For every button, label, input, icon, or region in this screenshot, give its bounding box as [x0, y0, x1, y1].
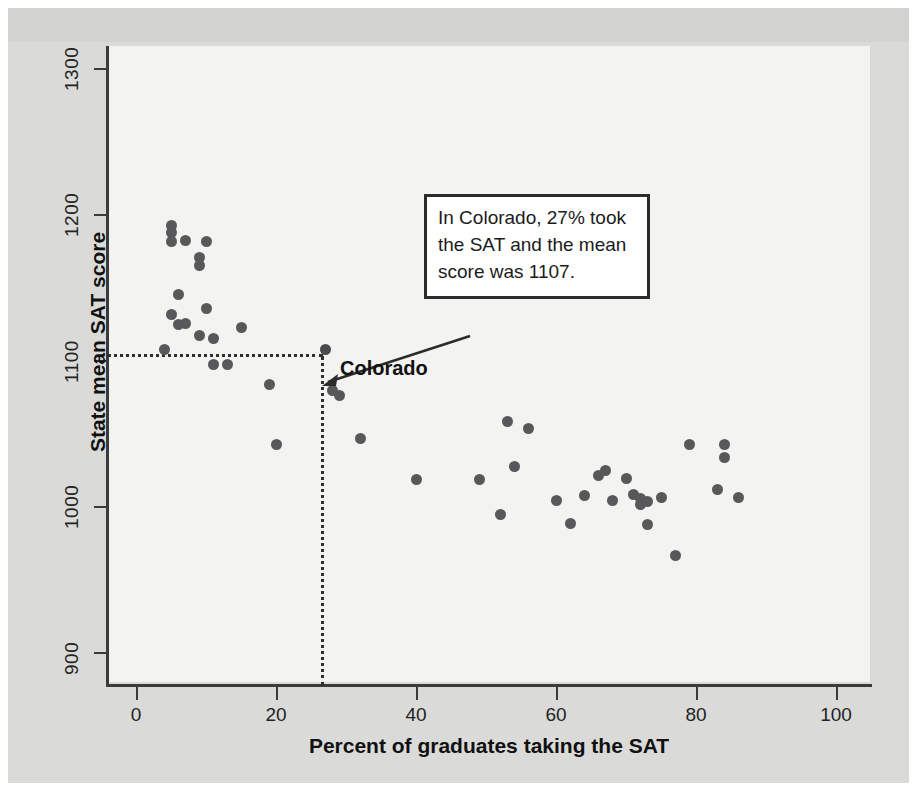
- data-point: [719, 452, 730, 463]
- data-point: [474, 474, 485, 485]
- y-tick-1000: [94, 506, 107, 508]
- y-tick-label-900-text: 900: [61, 631, 83, 675]
- data-point: [166, 309, 177, 320]
- y-tick-label-1100-text: 1100: [61, 339, 83, 383]
- data-point: [208, 359, 219, 370]
- chart-page: 1300 1200 1100 1000 900 0 20 40 60 80 10…: [0, 0, 917, 798]
- x-tick-60: [556, 687, 558, 700]
- data-point: [180, 318, 191, 329]
- data-point: [551, 495, 562, 506]
- data-point: [495, 509, 506, 520]
- data-point: [264, 379, 275, 390]
- data-point: [579, 490, 590, 501]
- x-tick-100: [836, 687, 838, 700]
- x-axis-line: [106, 684, 872, 687]
- colorado-point-label: Colorado: [340, 357, 428, 380]
- data-point: [201, 236, 212, 247]
- x-tick-20: [276, 687, 278, 700]
- y-tick-label-900: 900: [50, 642, 94, 664]
- data-point: [194, 260, 205, 271]
- data-point: [355, 433, 366, 444]
- data-point: [621, 473, 632, 484]
- page-background-shade: [8, 8, 909, 42]
- guide-line-vertical: [321, 356, 324, 686]
- x-tick-label-20: 20: [246, 704, 306, 726]
- guide-line-horizontal: [107, 354, 323, 357]
- data-point: [733, 492, 744, 503]
- x-tick-80: [696, 687, 698, 700]
- data-point: [712, 484, 723, 495]
- x-tick-label-80: 80: [666, 704, 726, 726]
- data-point: [159, 344, 170, 355]
- y-tick-label-1300: 1300: [50, 58, 94, 80]
- data-point: [166, 236, 177, 247]
- data-point: [670, 550, 681, 561]
- data-point: [201, 303, 212, 314]
- data-point: [236, 322, 247, 333]
- data-point: [565, 518, 576, 529]
- annotation-line-3: score was 1107.: [438, 259, 636, 286]
- data-point: [194, 330, 205, 341]
- y-tick-900: [94, 652, 107, 654]
- y-tick-label-1300-text: 1300: [61, 47, 83, 91]
- data-point: [719, 439, 730, 450]
- data-point: [523, 423, 534, 434]
- y-axis-title: State mean SAT score: [86, 182, 110, 502]
- data-point: [180, 235, 191, 246]
- data-point: [208, 333, 219, 344]
- data-point: [411, 474, 422, 485]
- data-point: [271, 439, 282, 450]
- y-tick-label-1200-text: 1200: [61, 193, 83, 237]
- data-point: [656, 492, 667, 503]
- annotation-line-2: the SAT and the mean: [438, 232, 636, 259]
- data-point: [684, 439, 695, 450]
- data-point: [222, 359, 233, 370]
- y-tick-label-1000-text: 1000: [61, 485, 83, 529]
- data-point: [607, 495, 618, 506]
- data-point: [502, 416, 513, 427]
- annotation-callout: In Colorado, 27% took the SAT and the me…: [424, 194, 650, 299]
- x-tick-40: [416, 687, 418, 700]
- data-point: [642, 496, 653, 507]
- y-tick-1300: [94, 68, 107, 70]
- x-tick-label-60: 60: [526, 704, 586, 726]
- annotation-line-1: In Colorado, 27% took: [438, 205, 636, 232]
- x-tick-label-0: 0: [106, 704, 166, 726]
- x-tick-0: [136, 687, 138, 700]
- data-point: [509, 461, 520, 472]
- x-tick-label-100: 100: [806, 704, 866, 726]
- data-point: [173, 289, 184, 300]
- x-axis-title: Percent of graduates taking the SAT: [108, 734, 870, 758]
- x-tick-label-40: 40: [386, 704, 446, 726]
- data-point: [600, 465, 611, 476]
- data-point: [642, 519, 653, 530]
